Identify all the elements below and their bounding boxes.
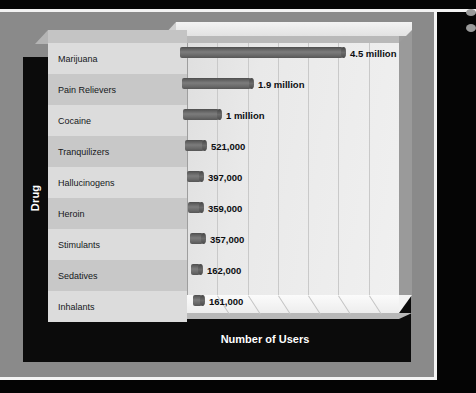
plot-right-wall-bevel	[399, 30, 412, 43]
category-label: Hallucinogens	[48, 178, 115, 188]
category-label: Heroin	[48, 209, 85, 219]
category-label: Pain Relievers	[48, 85, 116, 95]
bar-end-cap	[201, 233, 206, 244]
bar-value-label: 397,000	[208, 172, 242, 183]
bar	[190, 233, 203, 244]
y-axis-title: Drug	[29, 162, 41, 234]
plot-floor-bevel	[399, 295, 412, 313]
plot-top-slab	[176, 22, 412, 36]
bar-value-label: 1.9 million	[258, 79, 304, 90]
bar	[185, 140, 204, 151]
x-axis-title: Number of Users	[150, 333, 380, 345]
category-label: Sedatives	[48, 271, 98, 281]
slide-canvas: Drug MarijuanaPain RelieversCocaineTranq…	[0, 0, 476, 393]
category-panel-cap	[48, 30, 187, 44]
bar	[180, 47, 343, 58]
bar-value-label: 357,000	[210, 234, 244, 245]
category-row: Stimulants	[48, 229, 187, 260]
plot-floor-face-bevel	[399, 313, 412, 319]
bar	[187, 171, 201, 182]
wall-gridline	[338, 43, 339, 295]
bar	[183, 109, 219, 120]
slide-top-black-band	[0, 0, 476, 9]
category-row: Pain Relievers	[48, 74, 187, 105]
wall-gridline	[369, 43, 370, 295]
slide-right-black-band	[437, 12, 476, 380]
category-row: Tranquilizers	[48, 136, 187, 167]
bar-value-label: 359,000	[208, 203, 242, 214]
bar	[182, 78, 251, 89]
y-axis-title-band: Drug	[23, 57, 48, 343]
plot-floor-face	[187, 313, 399, 319]
category-label: Cocaine	[48, 116, 91, 126]
category-row: Inhalants	[48, 291, 187, 322]
bar-value-label: 4.5 million	[350, 48, 396, 59]
plot-top-slab-face	[163, 36, 399, 43]
category-row: Sedatives	[48, 260, 187, 291]
bar-end-cap	[341, 47, 346, 58]
category-row: Heroin	[48, 198, 187, 229]
category-row: Marijuana	[48, 43, 187, 74]
bar-end-cap	[198, 264, 203, 275]
bar-end-cap	[200, 295, 205, 306]
category-row: Cocaine	[48, 105, 187, 136]
bar-value-label: 162,000	[207, 265, 241, 276]
category-label-panel: MarijuanaPain RelieversCocaineTranquiliz…	[48, 43, 187, 322]
bar	[191, 264, 200, 275]
bar-end-cap	[202, 140, 207, 151]
bar	[193, 295, 202, 306]
slide-bottom-black-band	[0, 380, 476, 393]
bar-value-label: 521,000	[211, 141, 245, 152]
bar-value-label: 1 million	[226, 110, 265, 121]
category-label: Tranquilizers	[48, 147, 109, 157]
category-label: Stimulants	[48, 240, 100, 250]
category-row: Hallucinogens	[48, 167, 187, 198]
bar-end-cap	[249, 78, 254, 89]
bar-value-label: 161,000	[209, 296, 243, 307]
category-label: Marijuana	[48, 54, 98, 64]
bar-end-cap	[199, 171, 204, 182]
bar-end-cap	[199, 202, 204, 213]
bar	[188, 202, 201, 213]
bar-end-cap	[217, 109, 222, 120]
binding-hole-second-icon	[466, 24, 476, 32]
category-label: Inhalants	[48, 302, 95, 312]
plot-right-side-wall	[399, 43, 412, 295]
category-panel-cap-bevel	[35, 30, 48, 44]
wall-gridline	[308, 43, 309, 295]
binding-hole-top-icon	[466, 9, 476, 16]
